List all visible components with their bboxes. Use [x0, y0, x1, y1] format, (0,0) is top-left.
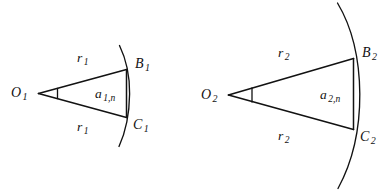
sector-2-vertex-subscript: 2	[211, 93, 217, 104]
sector-1-chord-label: a1,n	[95, 87, 115, 104]
sector-1-arc	[119, 46, 130, 147]
sector-1-chord-subscript: 1,n	[102, 93, 115, 103]
sector-1-point-c-subscript: 1	[143, 123, 149, 134]
sector-1-vertex-letter: O	[11, 85, 21, 100]
sector-1-point-c-label: C1	[133, 118, 149, 134]
sector-1-radius-lower-subscript: 1	[82, 126, 88, 136]
sector-1-point-b-subscript: 1	[144, 62, 150, 73]
sector-2-point-c-subscript: 2	[370, 135, 376, 146]
sector-1-vertex-label: O1	[11, 86, 28, 102]
geometry-figure: O1 r1 r1 a1,n B1 C1 O2 r2 r2 a2,n B2 C2	[0, 0, 392, 192]
sector-2-chord-subscript: 2,n	[327, 94, 340, 104]
sector-1-chord-letter: a	[95, 86, 102, 101]
sector-2-radius-upper-subscript: 2	[283, 52, 289, 62]
sector-1-point-c-letter: C	[133, 117, 143, 132]
sector-2-radius-lower-subscript: 2	[283, 135, 289, 145]
sector-2-point-b-letter: B	[362, 45, 371, 60]
sector-1-point-b-letter: B	[135, 56, 144, 71]
sector-1-radius-lower-label: r1	[77, 120, 89, 137]
sector-2-point-b-subscript: 2	[371, 51, 377, 62]
sector-1-radius-upper-label: r1	[77, 51, 89, 68]
sector-1-radius-upper-subscript: 1	[82, 57, 88, 67]
sector-1-point-b-label: B1	[135, 57, 150, 73]
sector-2-vertex-letter: O	[201, 87, 211, 102]
sector-2-point-b-label: B2	[362, 46, 377, 62]
sector-2-vertex-label: O2	[201, 88, 218, 104]
sector-1-vertex-subscript: 1	[21, 91, 27, 102]
sector-2-chord-letter: a	[320, 87, 327, 102]
sector-2-radius-upper-label: r2	[278, 46, 290, 63]
sector-2-radius-lower-label: r2	[278, 129, 290, 146]
sector-2-point-c-letter: C	[360, 129, 370, 144]
sector-2-chord-label: a2,n	[320, 88, 340, 105]
sector-2-arc	[338, 3, 360, 189]
sector-2-point-c-label: C2	[360, 130, 376, 146]
